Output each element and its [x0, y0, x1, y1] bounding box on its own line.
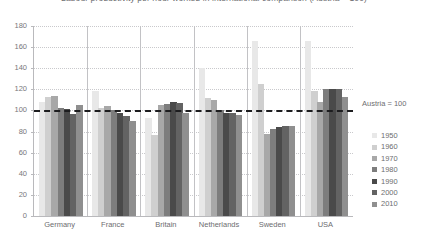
y-axis-tick-label: 40: [3, 170, 27, 178]
bar-group: [34, 26, 87, 216]
austria-reference-label: Austria = 100: [362, 99, 406, 108]
bar: [342, 97, 349, 216]
y-axis-tick-label: 140: [3, 64, 27, 72]
bar-group: [87, 26, 140, 216]
legend-label: 1990: [381, 178, 398, 186]
legend-item[interactable]: 1950: [372, 130, 398, 141]
austria-reference-line: [34, 110, 353, 112]
bar-group: [140, 26, 193, 216]
legend-label: 1970: [381, 155, 398, 163]
legend-swatch-icon: [372, 202, 377, 207]
legend-swatch-icon: [372, 145, 377, 150]
legend-swatch-icon: [372, 190, 377, 195]
x-axis-label-france: France: [86, 220, 139, 229]
y-axis-tick-label: 180: [3, 22, 27, 30]
bar-group: [247, 26, 300, 216]
legend-item[interactable]: 1990: [372, 176, 398, 187]
x-axis-label-germany: Germany: [33, 220, 86, 229]
legend-item[interactable]: 2000: [372, 187, 398, 198]
y-axis-tick-label: 160: [3, 43, 27, 51]
legend-swatch-icon: [372, 156, 377, 161]
x-axis-label-usa: USA: [299, 220, 352, 229]
legend-item[interactable]: 2010: [372, 198, 398, 209]
bar-group: [300, 26, 353, 216]
x-axis-label-sweden: Sweden: [246, 220, 299, 229]
y-axis-tick-label: 120: [3, 85, 27, 93]
legend-label: 2000: [381, 189, 398, 197]
legend-item[interactable]: 1970: [372, 153, 398, 164]
y-axis-tick-mark: [31, 216, 34, 217]
bar-group: [194, 26, 247, 216]
legend-swatch-icon: [372, 133, 377, 138]
legend-item[interactable]: 1960: [372, 141, 398, 152]
bar: [182, 113, 189, 216]
y-axis-tick-label: 20: [3, 191, 27, 199]
y-axis-tick-label: 0: [3, 212, 27, 220]
chart-legend: 1950196019701980199020002010: [372, 130, 398, 210]
legend-label: 1980: [381, 166, 398, 174]
legend-item[interactable]: 1980: [372, 164, 398, 175]
y-axis-tick-label: 80: [3, 128, 27, 136]
plot-area: 020406080100120140160180: [33, 26, 353, 217]
legend-label: 2010: [381, 200, 398, 208]
chart-title: Labour productivity per hour worked in i…: [0, 0, 428, 3]
x-axis-label-netherlands: Netherlands: [193, 220, 246, 229]
legend-label: 1950: [381, 132, 398, 140]
legend-label: 1960: [381, 143, 398, 151]
legend-swatch-icon: [372, 167, 377, 172]
bar: [236, 115, 243, 216]
x-axis-label-britain: Britain: [139, 220, 192, 229]
bar: [129, 121, 136, 216]
y-axis-tick-label: 100: [3, 106, 27, 114]
legend-swatch-icon: [372, 179, 377, 184]
bar: [76, 105, 83, 216]
y-axis-tick-label: 60: [3, 149, 27, 157]
chart-container: Labour productivity per hour worked in i…: [0, 0, 428, 248]
bar: [289, 126, 296, 216]
